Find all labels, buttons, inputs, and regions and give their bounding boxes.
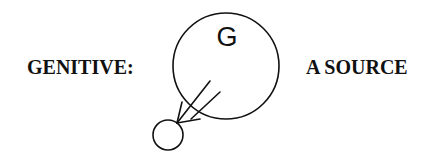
diagram-canvas: GENITIVE: G A SOURCE — [0, 0, 438, 162]
source-label: A SOURCE — [306, 57, 408, 77]
small-circle-node — [153, 120, 183, 150]
large-node-label: G — [216, 22, 237, 52]
diagram-graphic: G — [0, 0, 438, 162]
